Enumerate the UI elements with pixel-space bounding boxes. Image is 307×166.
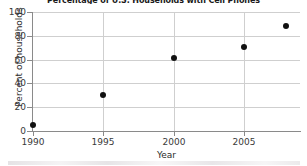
data-point	[30, 122, 36, 128]
x-axis-tick	[244, 132, 245, 136]
gridline-vertical	[244, 12, 245, 131]
y-axis-tick	[27, 36, 32, 37]
gridline-horizontal	[33, 107, 300, 108]
y-axis-tick-label: 100	[2, 8, 26, 17]
gridline-vertical	[174, 12, 175, 131]
x-axis-tick-label: 1995	[83, 137, 123, 147]
plot-area	[33, 12, 300, 131]
y-axis-tick	[27, 12, 32, 13]
clipped-text-artifact	[8, 161, 300, 165]
y-axis-tick	[27, 131, 32, 132]
y-axis-tick	[27, 107, 32, 108]
x-axis-label: Year	[33, 150, 300, 160]
chart-figure: Percentage of U.S. Households with Cell …	[0, 0, 307, 166]
data-point	[100, 92, 106, 98]
gridline-horizontal	[33, 83, 300, 84]
y-axis-tick	[27, 60, 32, 61]
x-axis-tick-label: 1990	[13, 137, 53, 147]
chart-title: Percentage of U.S. Households with Cell …	[0, 0, 307, 4]
data-point	[283, 23, 289, 29]
y-axis-tick-label: 0	[2, 127, 26, 136]
y-axis-tick-label: 40	[2, 79, 26, 88]
data-point	[241, 44, 247, 50]
gridline-horizontal	[33, 12, 300, 13]
y-axis-tick-label: 60	[2, 56, 26, 65]
x-axis-tick	[174, 132, 175, 136]
data-point	[171, 55, 177, 61]
x-axis-tick	[103, 132, 104, 136]
y-axis-tick-label: 80	[2, 32, 26, 41]
x-axis-tick	[33, 132, 34, 136]
x-axis-tick-label: 2000	[154, 137, 194, 147]
y-axis-tick-label: 20	[2, 103, 26, 112]
gridline-vertical	[103, 12, 104, 131]
x-axis-tick-label: 2005	[224, 137, 264, 147]
x-axis-spine	[33, 131, 301, 132]
y-axis-tick	[27, 83, 32, 84]
gridline-horizontal	[33, 36, 300, 37]
gridline-horizontal	[33, 60, 300, 61]
